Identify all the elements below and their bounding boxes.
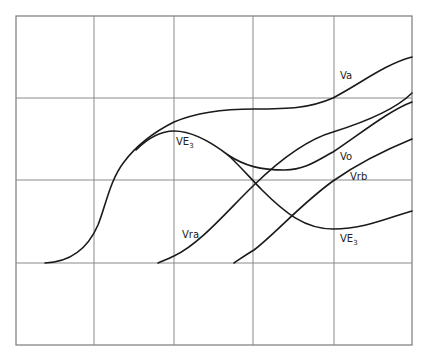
label-ve3-lower: VE3 <box>340 233 358 247</box>
label-ve3-upper-main: VE <box>176 136 189 147</box>
label-ve3-upper: VE3 <box>176 136 194 150</box>
label-vo: Vo <box>340 151 352 162</box>
line-chart: Va VE3 Vo Vrb Vra VE3 <box>0 0 428 359</box>
curve-va <box>45 57 412 263</box>
label-ve3-upper-sub: 3 <box>189 142 193 150</box>
label-vrb: Vrb <box>350 171 367 182</box>
label-ve3-lower-main: VE <box>340 233 353 244</box>
label-vra: Vra <box>182 229 199 240</box>
labels: Va VE3 Vo Vrb Vra VE3 <box>176 70 367 247</box>
curves <box>45 57 412 263</box>
label-va: Va <box>340 70 352 81</box>
label-ve3-lower-sub: 3 <box>353 239 357 247</box>
